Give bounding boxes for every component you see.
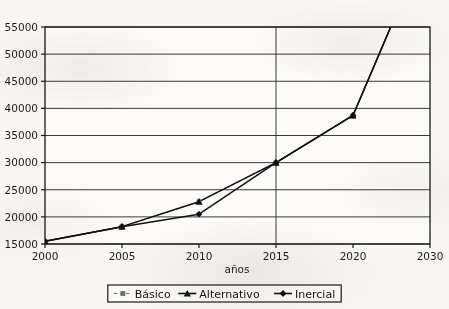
y-tick-label: 20000 <box>5 211 38 223</box>
y-tick-label: 35000 <box>5 129 38 141</box>
x-tick-label: 2000 <box>32 250 59 262</box>
y-tick-label: 50000 <box>5 48 38 60</box>
y-tick-label: 55000 <box>5 21 38 33</box>
legend-entries: BásicoAlternativoInercial <box>114 288 335 301</box>
x-tick-label: 2015 <box>263 250 290 262</box>
y-tick-label: 45000 <box>5 75 38 87</box>
legend-label: Inercial <box>295 288 335 301</box>
x-axis-tick-labels: 200020052010201520202030 <box>32 250 444 262</box>
line-chart-figure: 1500020000250003000035000400004500050000… <box>0 0 449 309</box>
x-tick-label: 2020 <box>340 250 367 262</box>
y-tick-label: 40000 <box>5 102 38 114</box>
chart-svg: 1500020000250003000035000400004500050000… <box>0 0 449 309</box>
chart-legend: BásicoAlternativoInercial <box>108 285 341 302</box>
x-tick-label: 2010 <box>186 250 213 262</box>
legend-marker-square <box>120 291 125 296</box>
y-axis-tick-labels: 1500020000250003000035000400004500050000… <box>5 21 38 250</box>
y-tick-label: 30000 <box>5 156 38 168</box>
y-tick-label: 25000 <box>5 184 38 196</box>
y-tick-label: 15000 <box>5 238 38 250</box>
legend-label: Alternativo <box>199 288 260 301</box>
x-tick-label: 2030 <box>417 250 444 262</box>
x-axis-title: años <box>225 263 250 275</box>
x-tick-label: 2005 <box>109 250 136 262</box>
legend-label: Básico <box>135 288 171 301</box>
